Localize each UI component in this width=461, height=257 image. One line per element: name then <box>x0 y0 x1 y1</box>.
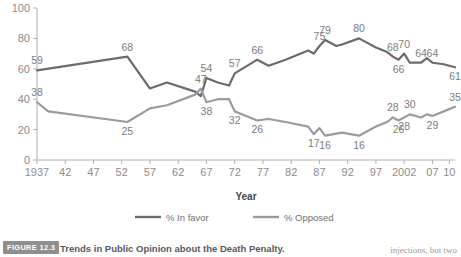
x-tick-label: 72 <box>229 166 241 178</box>
figure-container: 020406080100 193742475257626772778287929… <box>0 0 461 257</box>
data-point-label: 17 <box>308 137 320 149</box>
x-tick-label: 42 <box>59 166 71 178</box>
series-group <box>37 38 455 135</box>
data-point-label: 16 <box>353 139 365 151</box>
x-tick-label: 82 <box>285 166 297 178</box>
body-text-fragment: injections, but two <box>390 245 457 255</box>
data-point-label: 64 <box>427 47 439 59</box>
data-point-label: 64 <box>415 47 427 59</box>
y-tick-label: 40 <box>18 93 30 105</box>
data-point-label: 35 <box>449 91 461 103</box>
data-point-label: 59 <box>31 54 43 66</box>
x-tick-group: 193742475257626772778287929720020710 <box>25 160 456 178</box>
x-tick-label: 92 <box>342 166 354 178</box>
x-axis-title: Year <box>235 191 256 202</box>
data-point-label: 68 <box>387 41 399 53</box>
caption-bar: FIGURE 12.3 Trends in Public Opinion abo… <box>0 235 461 257</box>
data-point-label: 47 <box>195 73 207 85</box>
data-point-label: 32 <box>229 114 241 126</box>
data-point-label: 80 <box>353 22 365 34</box>
x-tick-label: 77 <box>257 166 269 178</box>
x-tick-label: 67 <box>200 166 212 178</box>
x-tick-label: 62 <box>172 166 184 178</box>
data-point-label: 61 <box>449 70 461 82</box>
data-point-label: 28 <box>387 101 399 113</box>
x-tick-label: 2002 <box>392 166 416 178</box>
legend: % In favor% Opposed <box>135 212 334 223</box>
legend-label-0: % In favor <box>166 212 209 223</box>
figure-number-badge: FIGURE 12.3 <box>3 241 59 254</box>
y-axis: 020406080100 <box>12 2 37 166</box>
x-tick-label: 97 <box>370 166 382 178</box>
data-point-label: 38 <box>201 105 213 117</box>
y-tick-label: 0 <box>24 154 30 166</box>
x-tick-label: 07 <box>426 166 438 178</box>
data-point-label: 29 <box>427 119 439 131</box>
data-point-label: 30 <box>404 98 416 110</box>
figure-caption: Trends in Public Opinion about the Death… <box>60 243 285 254</box>
data-point-label: 66 <box>251 44 263 56</box>
data-point-label: 38 <box>31 86 43 98</box>
y-tick-label: 20 <box>18 124 30 136</box>
legend-label-1: % Opposed <box>284 212 334 223</box>
x-tick-label: 1937 <box>25 166 49 178</box>
line-chart: 020406080100 193742475257626772778287929… <box>0 0 461 257</box>
x-tick-label: 47 <box>87 166 99 178</box>
x-tick-label: 52 <box>116 166 128 178</box>
x-axis: 193742475257626772778287929720020710 <box>25 160 456 178</box>
x-tick-label: 87 <box>313 166 325 178</box>
y-tick-label: 60 <box>18 63 30 75</box>
x-tick-label: 10 <box>443 166 455 178</box>
data-point-label: 79 <box>319 24 331 36</box>
y-tick-label: 100 <box>12 2 30 14</box>
data-label-group: 5968545766757980686670646461382547383226… <box>31 22 461 150</box>
data-point-label: 66 <box>393 63 405 75</box>
data-point-label: 57 <box>229 57 241 69</box>
data-point-label: 70 <box>398 38 410 50</box>
data-point-label: 26 <box>251 123 263 135</box>
data-point-label: 68 <box>122 41 134 53</box>
data-point-label: 25 <box>122 125 134 137</box>
data-point-label: 16 <box>319 139 331 151</box>
x-tick-label: 57 <box>144 166 156 178</box>
y-tick-group: 020406080100 <box>12 2 37 166</box>
y-tick-label: 80 <box>18 32 30 44</box>
data-point-label: 28 <box>398 120 410 132</box>
